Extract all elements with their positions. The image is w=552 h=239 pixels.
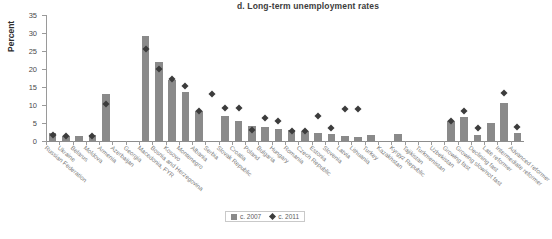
data-point-marker (182, 83, 189, 90)
legend-box: c. 2007c. 2011 (225, 211, 305, 222)
legend-item[interactable]: c. 2007 (231, 213, 261, 220)
bar (75, 136, 83, 141)
data-point-marker (341, 105, 348, 112)
bar (221, 116, 229, 141)
bar (314, 133, 322, 141)
y-axis-tick-label: 15 (29, 83, 37, 92)
bar (235, 121, 243, 141)
bar (168, 80, 176, 141)
chart-legend: c. 2007c. 2011 (0, 211, 530, 222)
data-point-marker (315, 112, 322, 119)
y-axis-tick: 15 (42, 87, 46, 88)
data-point-marker (275, 117, 282, 124)
y-axis-line (46, 15, 47, 141)
data-point-marker (235, 104, 242, 111)
y-axis-tick: 35 (42, 15, 46, 16)
data-point-marker (208, 90, 215, 97)
y-axis-tick-label: 10 (29, 101, 37, 110)
data-point-marker (222, 104, 229, 111)
legend-item[interactable]: c. 2011 (270, 213, 299, 220)
y-axis-tick-label: 5 (33, 119, 37, 128)
data-point-marker (354, 106, 361, 113)
data-point-marker (514, 123, 521, 130)
y-axis-tick: 30 (42, 33, 46, 34)
data-point-marker (461, 108, 468, 115)
chart-title: d. Long-term unemployment rates (0, 1, 530, 11)
bar (367, 135, 375, 141)
y-axis-label: Percent (6, 21, 16, 52)
y-axis-tick-label: 30 (29, 29, 37, 38)
bar (275, 129, 283, 141)
legend-square-icon (231, 214, 237, 220)
bar (487, 123, 495, 141)
bar (460, 117, 468, 141)
bar (474, 135, 482, 141)
data-point-marker (474, 124, 481, 131)
y-axis-tick-label: 0 (33, 137, 37, 146)
y-axis-tick: 10 (42, 105, 46, 106)
y-axis-tick-label: 25 (29, 47, 37, 56)
bar (261, 127, 269, 141)
y-axis-tick: 20 (42, 69, 46, 70)
bar (182, 92, 190, 141)
data-point-marker (328, 125, 335, 132)
plot-area: 05101520253035 (46, 15, 524, 141)
bar (500, 103, 508, 141)
y-axis-tick: 5 (42, 123, 46, 124)
data-point-marker (501, 89, 508, 96)
bar (341, 136, 349, 141)
y-axis-tick: 25 (42, 51, 46, 52)
bar (195, 111, 203, 141)
legend-label: c. 2011 (278, 213, 299, 220)
bar (394, 134, 402, 141)
bar (328, 134, 336, 141)
y-axis-tick-label: 20 (29, 65, 37, 74)
bar (354, 137, 362, 141)
y-axis-tick-label: 35 (29, 11, 37, 20)
data-point-marker (262, 114, 269, 121)
legend-diamond-icon (269, 213, 276, 220)
bar (514, 133, 522, 141)
bar (155, 62, 163, 141)
legend-label: c. 2007 (240, 213, 261, 220)
